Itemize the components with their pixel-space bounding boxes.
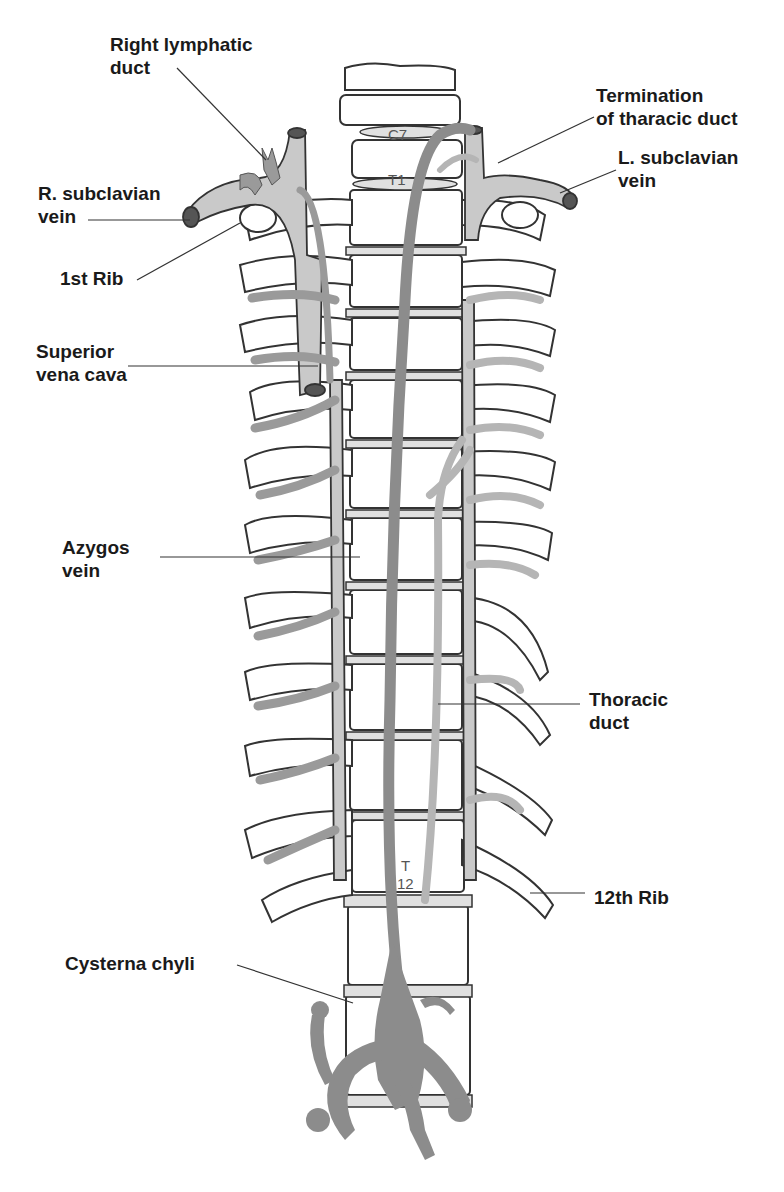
- label-cysterna-chyli: Cysterna chyli: [65, 952, 195, 975]
- label-first-rib: 1st Rib: [60, 267, 123, 290]
- label-azygos-vein: Azygos vein: [62, 536, 130, 582]
- label-thoracic-duct: Thoracic duct: [589, 688, 668, 734]
- vertebral-column: [340, 63, 470, 1095]
- t12-label-top: T: [401, 857, 410, 874]
- label-right-lymphatic-duct: Right lymphatic duct: [110, 33, 253, 79]
- label-l-subclavian-vein: L. subclavian vein: [618, 146, 738, 192]
- c7-label: C7: [388, 126, 407, 143]
- label-superior-vena-cava: Superior vena cava: [36, 340, 127, 386]
- label-r-subclavian-vein: R. subclavian vein: [38, 182, 161, 228]
- t1-label: T1: [388, 171, 406, 188]
- t12-label-bottom: 12: [397, 875, 414, 892]
- label-termination-thoracic-duct: Termination of tharacic duct: [596, 84, 737, 130]
- label-twelfth-rib: 12th Rib: [594, 886, 669, 909]
